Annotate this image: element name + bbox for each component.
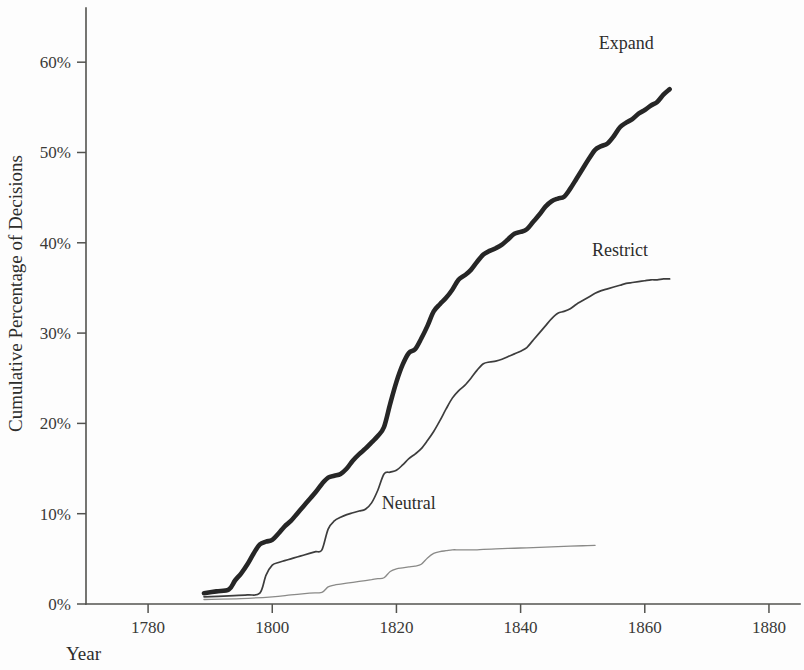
y-tick-label: 30% (40, 324, 71, 343)
y-tick-label: 20% (40, 414, 71, 433)
y-tick-label: 40% (40, 234, 71, 253)
y-tick-label: 50% (40, 143, 71, 162)
x-axis-ticks: 178018001820184018601880 (131, 604, 786, 637)
axes (86, 8, 800, 604)
series-label-neutral: Neutral (382, 493, 436, 513)
y-tick-label: 0% (48, 595, 71, 614)
series-label-expand: Expand (599, 33, 654, 53)
y-tick-label: 10% (40, 505, 71, 524)
y-axis-title: Cumulative Percentage of Decisions (5, 155, 26, 432)
series-line-expand (204, 89, 670, 593)
line-chart-svg: 0%10%20%30%40%50%60% 1780180018201840186… (0, 0, 804, 670)
x-tick-label: 1860 (628, 618, 662, 637)
series-label-restrict: Restrict (592, 240, 648, 260)
series-line-neutral (204, 545, 595, 599)
y-tick-label: 60% (40, 53, 71, 72)
x-axis-title: Year (66, 643, 102, 664)
chart-figure: 0%10%20%30%40%50%60% 1780180018201840186… (0, 0, 804, 670)
series-line-restrict (204, 279, 670, 597)
x-tick-label: 1780 (131, 618, 165, 637)
series-labels-group: ExpandRestrictNeutral (382, 33, 654, 514)
x-tick-label: 1840 (504, 618, 538, 637)
data-series-group (204, 89, 670, 599)
x-tick-label: 1800 (255, 618, 289, 637)
x-tick-label: 1880 (752, 618, 786, 637)
x-tick-label: 1820 (379, 618, 413, 637)
y-axis-ticks: 0%10%20%30%40%50%60% (40, 53, 86, 614)
